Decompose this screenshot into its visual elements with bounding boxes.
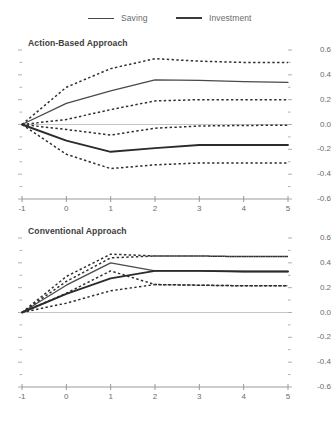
legend-line-investment-icon bbox=[176, 17, 202, 19]
x-tick-label: 5 bbox=[286, 205, 290, 213]
x-tick-label: 0 bbox=[64, 205, 68, 213]
legend-item-saving: Saving bbox=[88, 11, 148, 25]
x-tick-label: 2 bbox=[153, 393, 157, 401]
x-axis-tick-labels-action-based: -1012345 bbox=[0, 36, 333, 221]
x-axis-tick-labels-conventional: -1012345 bbox=[0, 224, 333, 409]
legend-item-investment: Investment bbox=[176, 11, 252, 25]
chart-panel-conventional: Conventional Approach 0.60.40.20.0-0.2-0… bbox=[0, 224, 333, 409]
x-tick-label: 4 bbox=[241, 205, 245, 213]
chart-panel-action-based: Action-Based Approach 0.60.40.20.0-0.2-0… bbox=[0, 36, 333, 221]
x-tick-label: 1 bbox=[108, 205, 112, 213]
x-tick-label: 1 bbox=[108, 393, 112, 401]
x-tick-label: 4 bbox=[241, 393, 245, 401]
x-tick-label: -1 bbox=[18, 393, 25, 401]
legend-line-saving-icon bbox=[88, 18, 114, 19]
x-tick-label: 3 bbox=[197, 393, 201, 401]
x-tick-label: 0 bbox=[64, 393, 68, 401]
clipped-header-text bbox=[6, 0, 126, 7]
x-tick-label: 3 bbox=[197, 205, 201, 213]
legend-label-saving: Saving bbox=[121, 13, 148, 23]
legend-label-investment: Investment bbox=[209, 13, 252, 23]
x-tick-label: 5 bbox=[286, 393, 290, 401]
x-tick-label: -1 bbox=[18, 205, 25, 213]
x-tick-label: 2 bbox=[153, 205, 157, 213]
chart-legend: Saving Investment bbox=[0, 11, 333, 27]
